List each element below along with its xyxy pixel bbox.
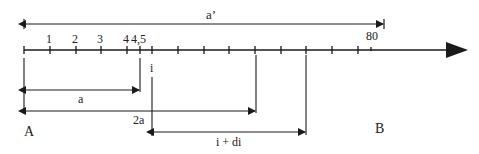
tick-label-1: 1: [46, 32, 52, 46]
label-2a: 2a: [133, 113, 145, 127]
label-a: a: [78, 92, 84, 106]
tick-label-80: 80: [366, 29, 378, 43]
label-point-A: A: [24, 124, 35, 139]
tick-label-3: 3: [97, 32, 103, 46]
vertical-guides: [24, 55, 306, 136]
label-point-B: B: [375, 121, 384, 136]
interval-a: a: [25, 90, 139, 106]
tick-label-2: 2: [72, 32, 78, 46]
tick-label-4-5: 4,5: [131, 32, 146, 46]
main-axis: 1 2 3 4 4,5 80: [24, 29, 468, 58]
diagram-canvas: a’ 1 2 3 4 4,5: [0, 0, 479, 154]
label-i-plus-di: i + di: [216, 135, 242, 149]
axis-arrowhead-icon: [446, 42, 468, 58]
interval-2a: 2a: [25, 111, 255, 127]
label-a-prime: a’: [206, 7, 216, 22]
label-i: i: [150, 61, 154, 75]
interval-i-plus-di: i + di: [153, 132, 305, 149]
tick-label-4: 4: [123, 32, 129, 46]
interval-a-prime: a’: [24, 7, 384, 29]
